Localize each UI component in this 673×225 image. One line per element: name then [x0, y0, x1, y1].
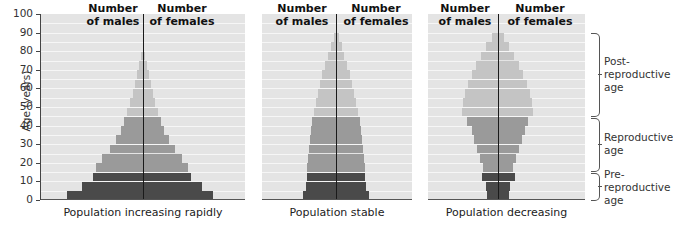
bar-males-65-69 [322, 70, 336, 79]
bar-females-35-39 [143, 126, 164, 135]
bar-males-65-69 [472, 70, 498, 79]
bar-males-10-14 [93, 173, 143, 182]
bracket-post-reproductive [591, 33, 600, 117]
bar-males-15-19 [483, 163, 498, 172]
pyramid-stable [262, 14, 412, 200]
bar-males-20-24 [480, 154, 498, 163]
bar-females-45-49 [143, 108, 158, 117]
bar-females-20-24 [498, 154, 516, 163]
bracket-reproductive [591, 118, 600, 172]
label-reproductive: Reproductive age [604, 131, 673, 157]
bar-males-45-49 [127, 108, 143, 117]
y-tick [36, 70, 40, 71]
bar-females-5-9 [336, 182, 366, 191]
bar-males-60-64 [320, 80, 336, 89]
bar-males-5-9 [82, 182, 143, 191]
bar-males-55-59 [318, 89, 336, 98]
y-tick-label: 90 [11, 26, 33, 38]
bar-females-25-29 [143, 145, 175, 154]
bar-males-80-84 [486, 42, 498, 51]
header-males-1: Number of males [85, 2, 141, 28]
bar-females-20-24 [143, 154, 182, 163]
bar-males-30-34 [310, 135, 336, 144]
header-females-1: Number of females [146, 2, 218, 28]
caption-stable: Population stable [262, 206, 412, 219]
header-females-3: Number of females [504, 2, 576, 28]
bar-females-80-84 [498, 42, 509, 51]
y-tick-label: 10 [11, 174, 33, 186]
bar-females-50-54 [336, 98, 356, 107]
header-males-2: Number of males [272, 2, 332, 28]
bar-females-40-44 [498, 117, 528, 126]
header-males-3: Number of males [436, 2, 494, 28]
bar-females-60-64 [336, 80, 352, 89]
bar-females-5-9 [498, 182, 510, 191]
bar-females-25-29 [498, 145, 519, 154]
bar-females-70-74 [498, 61, 519, 70]
bar-males-40-44 [312, 117, 336, 126]
center-divider-line [143, 14, 144, 200]
y-tick-label: 0 [11, 193, 33, 205]
header-females-2: Number of females [340, 2, 412, 28]
bar-males-40-44 [467, 117, 498, 126]
bar-males-10-14 [307, 173, 336, 182]
y-tick-label: 20 [11, 156, 33, 168]
bar-males-55-59 [133, 89, 143, 98]
bar-males-35-39 [311, 126, 336, 135]
bracket-tip-post [598, 74, 602, 75]
bar-males-50-54 [463, 98, 498, 107]
bar-females-65-69 [498, 70, 523, 79]
bar-females-45-49 [336, 108, 358, 117]
pyramid-decreasing [428, 14, 585, 200]
bar-females-55-59 [143, 89, 153, 98]
x-axis-baseline [428, 199, 585, 200]
bar-males-60-64 [468, 80, 498, 89]
bar-males-20-24 [308, 154, 336, 163]
label-pre-reproductive: Pre- reproductive age [604, 168, 671, 207]
bar-females-25-29 [336, 145, 363, 154]
center-divider-line [498, 14, 499, 200]
bracket-tip-repro [598, 144, 602, 145]
x-axis-baseline [262, 199, 412, 200]
bracket-pre-reproductive [591, 173, 600, 201]
y-tick [36, 163, 40, 164]
bar-males-35-39 [472, 126, 498, 135]
bar-males-45-49 [462, 108, 498, 117]
y-tick [36, 14, 40, 15]
bar-females-10-14 [143, 173, 191, 182]
bar-males-50-54 [130, 98, 143, 107]
bar-males-75-79 [481, 52, 498, 61]
bar-males-20-24 [102, 154, 143, 163]
y-tick [36, 181, 40, 182]
bar-males-25-29 [309, 145, 336, 154]
y-tick [36, 88, 40, 89]
grid-stripe [428, 33, 585, 34]
bar-females-55-59 [336, 89, 354, 98]
bar-females-10-14 [336, 173, 365, 182]
bracket-tip-pre [598, 186, 602, 187]
y-tick-label: 100 [11, 7, 33, 19]
bar-males-25-29 [110, 145, 143, 154]
y-tick-label: 30 [11, 137, 33, 149]
y-tick [36, 107, 40, 108]
bar-males-30-34 [474, 135, 498, 144]
bar-females-35-39 [498, 126, 525, 135]
bar-females-70-74 [336, 61, 347, 70]
pyramid-increasing-rapidly [41, 14, 245, 200]
bar-males-15-19 [96, 163, 143, 172]
bar-males-5-9 [486, 182, 498, 191]
bar-males-40-44 [124, 117, 143, 126]
y-tick [36, 144, 40, 145]
bar-females-55-59 [498, 89, 530, 98]
caption-increasing-rapidly: Population increasing rapidly [41, 206, 245, 219]
y-tick [36, 200, 40, 201]
center-divider-line [336, 14, 337, 200]
bar-females-60-64 [498, 80, 527, 89]
bar-males-15-19 [307, 163, 336, 172]
caption-decreasing: Population decreasing [428, 206, 585, 219]
bar-males-60-64 [135, 80, 143, 89]
bar-females-15-19 [498, 163, 513, 172]
bar-females-40-44 [143, 117, 161, 126]
bar-females-50-54 [498, 98, 532, 107]
bar-males-70-74 [476, 61, 498, 70]
